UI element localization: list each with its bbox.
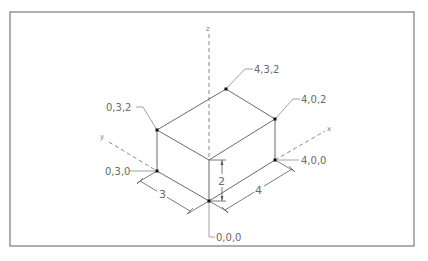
point-400 <box>274 159 277 162</box>
point-030 <box>156 170 159 173</box>
label-432: 4,3,2 <box>254 64 279 75</box>
point-402 <box>274 118 277 121</box>
point-032 <box>156 129 159 132</box>
drawing-frame <box>10 12 414 246</box>
z-axis-label: z <box>206 25 210 33</box>
dim-2-label: 2 <box>218 175 225 188</box>
label-032: 0,3,2 <box>106 102 131 113</box>
point-000 <box>208 200 211 203</box>
dim-4-label: 4 <box>255 184 262 197</box>
label-402: 4,0,2 <box>301 94 326 105</box>
x-axis-label: x <box>327 125 331 133</box>
label-400: 4,0,0 <box>301 155 326 166</box>
label-000: 0,0,0 <box>216 232 241 243</box>
diagram-canvas: z y x 3 2 <box>0 0 428 261</box>
point-432 <box>225 88 228 91</box>
dim-3-label: 3 <box>159 188 166 201</box>
y-axis-label: y <box>100 133 104 141</box>
label-030: 0,3,0 <box>105 166 130 177</box>
